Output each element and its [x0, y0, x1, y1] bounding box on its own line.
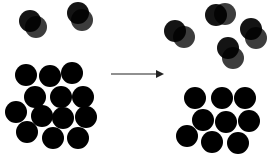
after-gas-molecule [205, 3, 236, 26]
molecule-icon [211, 87, 233, 109]
before-state [5, 2, 97, 149]
molecule-icon [15, 64, 37, 86]
molecule-icon [39, 65, 61, 87]
atom-icon [19, 10, 41, 32]
molecule-icon [52, 107, 74, 129]
molecule-icon [184, 87, 206, 109]
after-gas-molecule [217, 37, 244, 69]
molecule-icon [42, 127, 64, 149]
atom-icon [217, 37, 239, 59]
after-state [164, 3, 267, 154]
molecule-icon [75, 106, 97, 128]
molecule-icon [201, 131, 223, 153]
after-liquid-cluster [176, 87, 260, 154]
molecule-icon [5, 101, 27, 123]
atom-icon [240, 18, 262, 40]
before-liquid-cluster [5, 62, 97, 149]
molecule-icon [24, 86, 46, 108]
after-gas-molecule [164, 20, 195, 48]
molecule-icon [234, 87, 256, 109]
molecule-icon [50, 86, 72, 108]
phase-change-diagram [0, 0, 278, 161]
molecule-icon [67, 127, 89, 149]
molecule-icon [31, 105, 53, 127]
atom-icon [67, 2, 89, 24]
molecule-icon [176, 125, 198, 147]
molecule-icon [227, 132, 249, 154]
atom-icon [205, 4, 227, 26]
after-gas-molecule [240, 18, 267, 49]
molecule-icon [72, 86, 94, 108]
molecule-icon [238, 110, 260, 132]
molecule-icon [192, 109, 214, 131]
molecule-icon [61, 62, 83, 84]
molecule-icon [16, 121, 38, 143]
molecule-icon [215, 111, 237, 133]
atom-icon [164, 20, 186, 42]
before-gas-molecule [67, 2, 93, 31]
before-gas-molecule [19, 10, 47, 38]
